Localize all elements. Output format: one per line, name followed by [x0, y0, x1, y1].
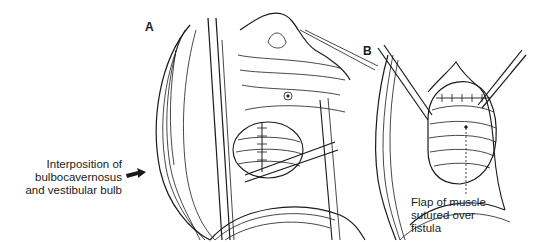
panel-a-drawing — [156, 13, 378, 240]
panel-b-label: B — [363, 45, 372, 57]
flap-label-line-2: sutured over — [411, 209, 521, 222]
interposition-label-line-3: and vestibular bulb — [18, 184, 122, 197]
interposition-label-line-2: bulbocavernosus — [18, 171, 122, 184]
interposition-label-line-1: Interposition of — [18, 158, 122, 171]
arrow-icon — [126, 168, 146, 178]
panel-a-label: A — [145, 21, 154, 33]
flap-label: Flap of muscle sutured over fistula — [411, 196, 521, 235]
flap-label-line-1: Flap of muscle — [411, 196, 521, 209]
interposition-label: Interposition of bulbocavernosus and ves… — [18, 158, 122, 197]
flap-label-line-3: fistula — [411, 222, 521, 235]
